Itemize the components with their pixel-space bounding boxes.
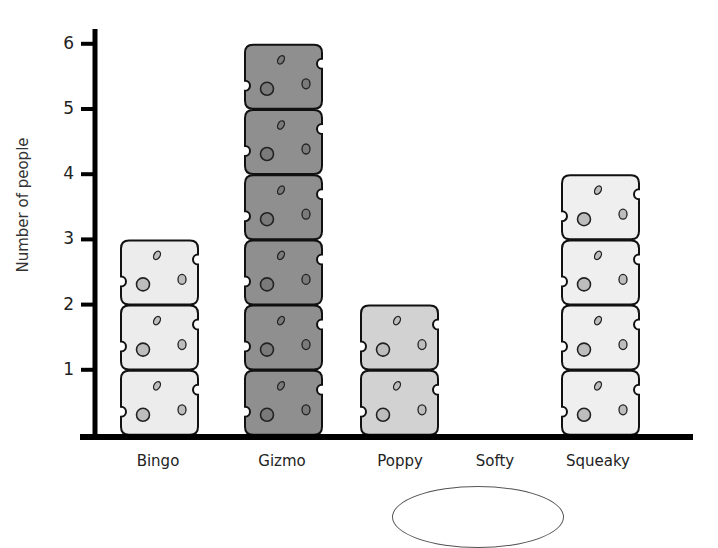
cheese-block-icon: [245, 175, 322, 239]
y-tick-label: 5: [54, 98, 74, 118]
x-tick-label: Poppy: [350, 452, 450, 470]
cheese-block-icon: [562, 371, 639, 435]
y-axis-title: Number of people: [8, 60, 38, 350]
cheese-block-icon: [121, 306, 198, 370]
cheese-block-icon: [361, 371, 438, 435]
cheese-block-icon: [562, 175, 639, 239]
cheese-block-icon: [245, 240, 322, 304]
cheese-block-icon: [562, 306, 639, 370]
bars-group: [121, 45, 639, 435]
cheese-block-icon: [245, 371, 322, 435]
cheese-block-icon: [245, 306, 322, 370]
cheese-block-icon: [245, 110, 322, 174]
x-tick-label: Softy: [445, 452, 545, 470]
y-tick-label: 6: [54, 33, 74, 53]
cheese-block-icon: [361, 306, 438, 370]
y-tick-label: 3: [54, 228, 74, 248]
bar-bingo: [121, 240, 198, 434]
y-tick-label: 1: [54, 359, 74, 379]
x-tick-label: Gizmo: [232, 452, 332, 470]
x-tick-label: Bingo: [108, 452, 208, 470]
cheese-block-icon: [245, 45, 322, 109]
y-axis-title-text: Number of people: [14, 137, 32, 272]
key-circle-partial: [392, 486, 564, 548]
y-tick-label: 4: [54, 163, 74, 183]
x-tick-label: Squeaky: [548, 452, 648, 470]
bar-poppy: [361, 306, 438, 435]
cheese-block-icon: [562, 240, 639, 304]
cheese-block-icon: [121, 240, 198, 304]
cheese-block-icon: [121, 371, 198, 435]
bar-squeaky: [562, 175, 639, 435]
y-tick-label: 2: [54, 294, 74, 314]
bar-gizmo: [245, 45, 322, 435]
